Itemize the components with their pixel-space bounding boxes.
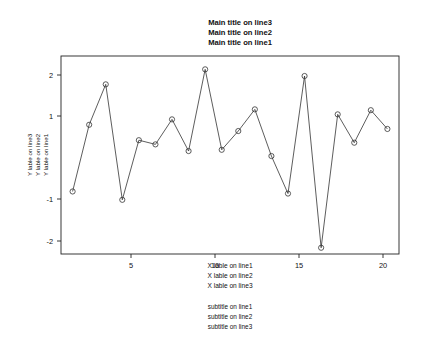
y-tick-label: -2 [46,237,53,246]
x-axis-label-line-3: X lable on line3 [207,282,252,289]
plot-frame [61,56,399,254]
y-tick-label: -1 [46,195,53,204]
x-tick-label: 5 [129,261,133,270]
subtitle-line-1: subtitle on line1 [208,303,253,310]
x-axis-label-group: X lable on line1 X lable on line2 X labl… [207,262,252,289]
y-tick-label: 1 [49,112,53,121]
chart-page: Main title on line3 Main title on line2 … [0,0,431,345]
chart-title-line-2: Main title on line2 [208,28,272,37]
chart-title-line-1: Main title on line3 [208,18,272,27]
y-axis-label-line-2: Y lable on line2 [34,133,41,176]
y-axis-label-line-3: Y lable on line1 [42,133,49,176]
x-tick-label: 15 [295,261,303,270]
subtitle-line-3: subtitle on line3 [208,323,253,330]
series-points [70,67,390,251]
chart-title-line-3: Main title on line1 [208,38,272,47]
x-axis-label-line-2: X lable on line2 [207,272,252,279]
series-line [73,69,388,247]
x-axis-ticks: 5 10 15 20 [129,254,387,270]
subtitle-group: subtitle on line1 subtitle on line2 subt… [208,303,253,330]
y-axis-label-line-1: Y lable on line3 [26,133,33,176]
chart-svg: Main title on line3 Main title on line2 … [0,0,431,345]
y-axis-label-group: Y lable on line3 Y lable on line2 Y labl… [26,133,49,176]
x-tick-label: 20 [379,261,387,270]
subtitle-line-2: subtitle on line2 [208,313,253,320]
y-tick-label: 2 [49,71,53,80]
plot-area: Main title on line3 Main title on line2 … [0,0,431,345]
x-axis-label-line-1: X lable on line1 [207,262,252,269]
